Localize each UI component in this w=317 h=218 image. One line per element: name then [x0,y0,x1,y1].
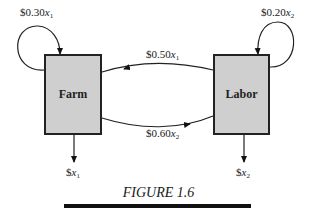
farm-to-labor-arrow [102,116,213,127]
labor-to-farm-arrow [102,64,213,73]
caption-rule [64,204,251,208]
farm-to-labor-label: $0.60x2 [146,127,179,141]
farm-node-label: Farm [59,87,88,102]
labor-output-label: $x2 [236,166,250,180]
farm-node: Farm [44,54,102,135]
labor-node-label: Labor [225,87,257,102]
farm-self-loop-label: $0.30x1 [20,6,53,20]
figure-caption: FIGURE 1.6 [0,185,317,201]
labor-to-farm-label: $0.50x1 [146,48,179,62]
labor-node: Labor [213,54,270,135]
labor-self-loop-label: $0.20x2 [261,6,294,20]
farm-output-label: $x1 [66,166,80,180]
